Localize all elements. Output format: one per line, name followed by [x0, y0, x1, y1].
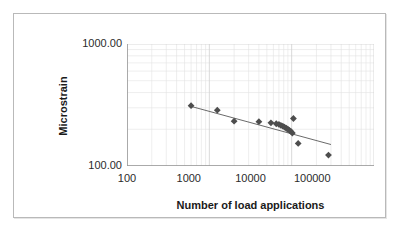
grid-minor-vertical-lines [152, 44, 370, 166]
axis-lines [127, 44, 374, 166]
grid-minor-horizontal-lines [127, 50, 374, 130]
y-axis-tick-label-100: 100.00 [62, 159, 122, 171]
grid-major-vertical-lines [127, 44, 374, 166]
grid-major-horizontal-lines [127, 44, 374, 166]
y-axis-title: Microstrain [44, 56, 58, 156]
trendline [191, 106, 331, 144]
x-axis-tick-label-10000: 10000 [235, 172, 266, 184]
chart-frame: Microstrain 1000.00 100.00 100 1000 1000… [13, 13, 386, 218]
axis-tick-marks [127, 44, 374, 166]
y-axis-tick-label-1000: 1000.00 [62, 37, 122, 49]
figure-root: Microstrain 1000.00 100.00 100 1000 1000… [0, 0, 410, 235]
plot-area [127, 44, 374, 166]
x-axis-tick-label-100000: 100000 [294, 172, 331, 184]
y-axis-title-label: Microstrain [57, 56, 69, 156]
x-axis-title: Number of load applications [127, 199, 374, 211]
plot-svg [127, 44, 374, 166]
x-axis-tick-label-1000: 1000 [177, 172, 201, 184]
x-axis-tick-label-100: 100 [118, 172, 136, 184]
